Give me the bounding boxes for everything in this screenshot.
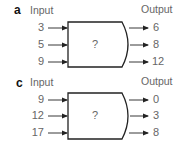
- input-value: 17: [22, 126, 44, 138]
- output-value: 8: [153, 126, 159, 138]
- panel-label: c: [16, 76, 23, 90]
- input-header: Input: [30, 4, 53, 16]
- output-value: 3: [153, 109, 159, 121]
- panel-label: a: [14, 3, 21, 17]
- output-value: 0: [153, 93, 159, 105]
- function-box-label: ?: [92, 38, 98, 50]
- output-header: Output: [141, 75, 173, 87]
- output-value: 12: [152, 55, 164, 67]
- input-value: 3: [22, 21, 44, 33]
- output-value: 6: [153, 21, 159, 33]
- input-value: 12: [22, 109, 44, 121]
- input-value: 9: [22, 55, 44, 67]
- input-header: Input: [30, 76, 53, 88]
- input-value: 9: [22, 93, 44, 105]
- output-header: Output: [141, 3, 173, 15]
- function-box-label: ?: [92, 109, 98, 121]
- output-value: 8: [153, 38, 159, 50]
- input-value: 5: [22, 38, 44, 50]
